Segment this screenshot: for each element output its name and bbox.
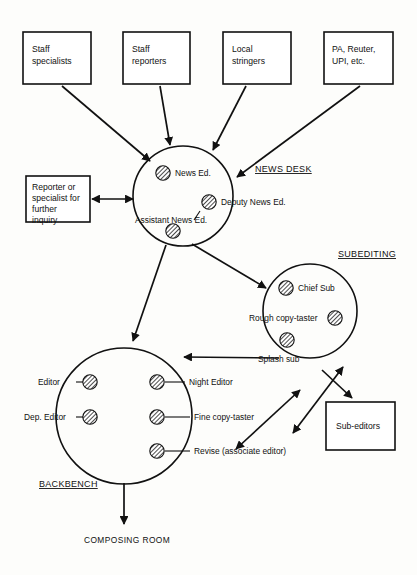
source-label-line1: PA, Reuter,	[332, 44, 375, 54]
role-dep-editor[interactable]: Dep. Editor	[24, 410, 97, 424]
role-dot-rough-copy-taster	[328, 311, 342, 325]
terminal-label-composing-room: COMPOSING ROOM	[84, 535, 170, 545]
source-box-staff-specialists[interactable]: Staff specialists	[23, 32, 91, 84]
role-label-news-editor: News Ed.	[175, 168, 211, 178]
role-dot-chief-sub	[279, 281, 293, 295]
source-label-line1: Local	[232, 44, 253, 54]
feedback-label-line2: specialist for	[32, 193, 80, 203]
role-label-night-editor: Night Editor	[189, 377, 233, 387]
section-label-subediting: SUBEDITING	[338, 249, 396, 259]
source-label-line2: specialists	[32, 56, 72, 66]
connector-reporters-to-newsdesk	[160, 86, 170, 145]
source-box-local-stringers[interactable]: Local stringers	[223, 32, 291, 84]
role-revise[interactable]: Revise (associate editor)	[150, 444, 287, 458]
source-label-line2: UPI, etc.	[332, 56, 365, 66]
role-dot-revise	[150, 444, 164, 458]
subediting-circle[interactable]	[263, 264, 357, 358]
source-label-line2: reporters	[132, 56, 166, 66]
role-rough-copy-taster[interactable]: Rough copy-taster	[249, 311, 342, 325]
role-dot-assistant-news-editor	[166, 224, 180, 238]
backbench-circle[interactable]	[56, 348, 192, 484]
section-label-backbench: BACKBENCH	[39, 479, 98, 489]
role-label-revise: Revise (associate editor)	[194, 446, 286, 456]
role-splash-sub[interactable]: Splash sub	[258, 333, 300, 364]
connector-subediting-to-backbench	[184, 357, 279, 358]
role-dot-fine-copy-taster	[150, 410, 164, 424]
role-label-dep-editor: Dep. Editor	[24, 412, 66, 422]
role-label-chief-sub: Chief Sub	[298, 283, 335, 293]
source-label-line1: Staff	[132, 44, 150, 54]
role-label-rough-copy-taster: Rough copy-taster	[249, 313, 318, 323]
feedback-label-line4: inquiry	[32, 215, 58, 225]
news-desk-circle[interactable]	[133, 146, 233, 246]
role-label-editor: Editor	[38, 377, 60, 387]
feedback-label-line3: further	[32, 204, 57, 214]
source-label-line1: Staff	[32, 44, 50, 54]
role-news-editor[interactable]: News Ed.	[156, 166, 211, 180]
role-dot-news-editor	[156, 166, 170, 180]
role-deputy-news-editor[interactable]: Deputy News Ed.	[202, 195, 286, 209]
source-label-line2: stringers	[232, 56, 265, 66]
source-box-agencies[interactable]: PA, Reuter, UPI, etc.	[324, 32, 393, 84]
role-chief-sub[interactable]: Chief Sub	[279, 281, 335, 295]
role-label-assistant-news-editor: Assistant News Ed.	[135, 215, 207, 225]
role-dot-editor	[83, 375, 97, 389]
role-assistant-news-editor[interactable]: Assistant News Ed.	[135, 211, 207, 238]
feedback-label-line1: Reporter or	[32, 182, 76, 192]
connector-specialists-to-newsdesk	[62, 86, 150, 161]
section-label-news-desk: NEWS DESK	[255, 164, 312, 174]
sub-editors-label: Sub-editors	[336, 421, 380, 431]
role-fine-copy-taster[interactable]: Fine copy-taster	[150, 410, 254, 424]
workflow-diagram: Staff specialists Staff reporters Local …	[0, 0, 417, 575]
role-label-fine-copy-taster: Fine copy-taster	[194, 412, 254, 422]
connector-stringers-to-newsdesk	[213, 86, 246, 150]
role-dot-deputy-news-editor	[202, 195, 216, 209]
connector-newsdesk-to-backbench	[133, 245, 166, 341]
role-dot-dep-editor	[83, 410, 97, 424]
source-box-staff-reporters[interactable]: Staff reporters	[123, 32, 190, 84]
sub-editors-box[interactable]: Sub-editors	[326, 402, 395, 450]
role-dot-night-editor	[150, 375, 164, 389]
role-night-editor[interactable]: Night Editor	[150, 375, 233, 389]
role-label-splash-sub: Splash sub	[258, 354, 300, 364]
role-dot-splash-sub	[280, 333, 294, 347]
connector-newsdesk-to-subediting	[192, 244, 266, 288]
role-label-deputy-news-editor: Deputy News Ed.	[221, 197, 286, 207]
diagram-canvas: Staff specialists Staff reporters Local …	[0, 0, 417, 575]
feedback-box-reporter-or-specialist[interactable]: Reporter or specialist for further inqui…	[26, 176, 90, 225]
